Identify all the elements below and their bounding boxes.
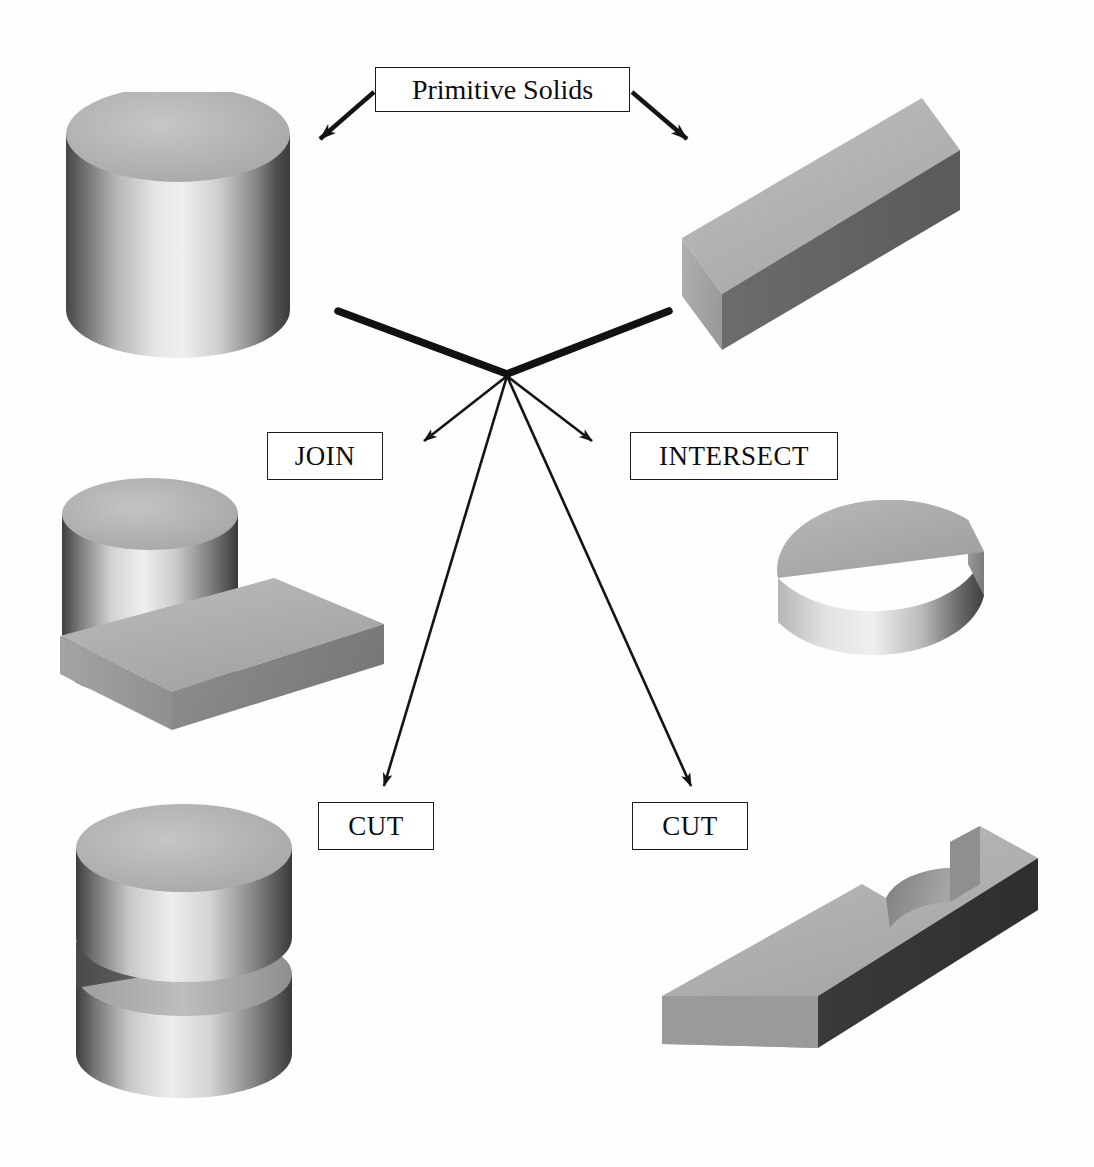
box-primitive-figure: [660, 88, 960, 378]
line-box-to-hub: [507, 311, 669, 374]
arrow-hub-to-join: [424, 376, 507, 441]
node-cut-left-label: CUT: [348, 811, 404, 842]
cylinder-primitive-figure: [58, 92, 298, 382]
join-result-figure: [42, 468, 432, 730]
node-intersect[interactable]: INTERSECT: [630, 432, 838, 480]
intersect-result-figure: [770, 500, 1000, 715]
diagram-canvas: Primitive Solids JOIN INTERSECT CUT CUT: [0, 0, 1094, 1167]
node-primitive-solids-label: Primitive Solids: [412, 74, 593, 106]
arrow-root-to-cylinder: [320, 92, 374, 139]
cut-cylinder-result-figure: [62, 792, 312, 1110]
cut-box-result-figure: [650, 806, 1040, 1106]
node-primitive-solids[interactable]: Primitive Solids: [375, 67, 630, 112]
node-cut-left[interactable]: CUT: [318, 802, 434, 850]
line-cylinder-to-hub: [338, 311, 507, 374]
arrow-hub-to-intersect: [507, 376, 592, 441]
node-intersect-label: INTERSECT: [659, 441, 809, 472]
node-join-label: JOIN: [295, 441, 356, 472]
